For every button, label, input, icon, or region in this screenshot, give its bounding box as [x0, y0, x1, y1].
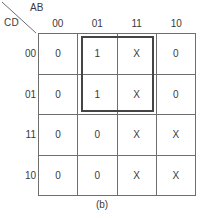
kmap-cell: 0 — [39, 75, 78, 116]
kmap-cell: X — [118, 34, 157, 75]
kmap-cell: 1 — [78, 34, 117, 75]
column-header-1: 01 — [78, 16, 118, 32]
row-header-1: 01 — [8, 74, 36, 115]
kmap-cell: 0 — [39, 156, 78, 197]
kmap-cell: 0 — [157, 75, 196, 116]
kmap-grid: 0 1 X 0 0 1 X 0 0 0 X X 0 0 X X — [38, 33, 196, 196]
kmap-cell: 0 — [157, 34, 196, 75]
row-axis-label: CD — [4, 17, 19, 28]
kmap-cell: X — [157, 156, 196, 197]
kmap-cell: 0 — [78, 115, 117, 156]
kmap-cell: 0 — [78, 156, 117, 197]
kmap-cell: 1 — [78, 75, 117, 116]
kmap-cell: X — [157, 115, 196, 156]
kmap-cell: 0 — [39, 115, 78, 156]
row-header-3: 10 — [8, 155, 36, 196]
column-header-0: 00 — [38, 16, 78, 32]
column-header-3: 10 — [157, 16, 197, 32]
row-header-column: 00 01 11 10 — [8, 33, 36, 196]
kmap-cell: X — [118, 75, 157, 116]
column-axis-label: AB — [30, 2, 44, 13]
kmap-cell: 0 — [39, 34, 78, 75]
row-header-0: 00 — [8, 33, 36, 74]
row-header-2: 11 — [8, 115, 36, 156]
column-header-2: 11 — [117, 16, 157, 32]
figure-caption: (b) — [0, 199, 204, 210]
kmap-cell: X — [118, 156, 157, 197]
karnaugh-map-figure: AB CD 00 01 11 10 00 01 11 10 0 1 X 0 0 … — [0, 0, 204, 218]
column-header-row: 00 01 11 10 — [38, 16, 196, 32]
kmap-cell: X — [118, 115, 157, 156]
